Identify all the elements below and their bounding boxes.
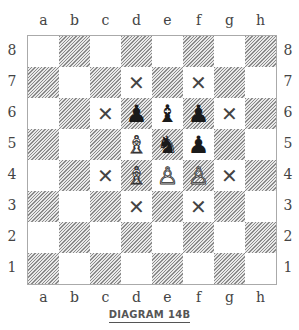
square-h4 xyxy=(245,160,276,191)
caption-text: DIAGRAM 14B xyxy=(109,309,191,323)
square-f5: ♟ xyxy=(183,129,214,160)
file-label-b: b xyxy=(59,289,90,305)
file-label-h: h xyxy=(245,289,276,305)
cross-mark-icon: ✕ xyxy=(190,197,207,217)
chess-board: ✕✕✕♟♝♟✕♗♞♟✕♗♙♙✕✕✕ xyxy=(27,35,277,285)
square-a8 xyxy=(28,36,59,67)
square-h2 xyxy=(245,222,276,253)
cross-mark-icon: ✕ xyxy=(221,104,238,124)
square-e1 xyxy=(152,253,183,284)
rank-label-6: 6 xyxy=(280,104,296,120)
cross-mark-icon: ✕ xyxy=(97,104,114,124)
square-h6 xyxy=(245,98,276,129)
square-a5 xyxy=(28,129,59,160)
file-label-e: e xyxy=(152,12,183,28)
square-b3 xyxy=(59,191,90,222)
square-a4 xyxy=(28,160,59,191)
file-label-a: a xyxy=(28,12,59,28)
square-g6: ✕ xyxy=(214,98,245,129)
square-f3: ✕ xyxy=(183,191,214,222)
square-c5 xyxy=(90,129,121,160)
black-bishop-icon: ♝ xyxy=(157,102,179,126)
square-f6: ♟ xyxy=(183,98,214,129)
square-b6 xyxy=(59,98,90,129)
square-d6: ♟ xyxy=(121,98,152,129)
square-h3 xyxy=(245,191,276,222)
square-e7 xyxy=(152,67,183,98)
rank-label-7: 7 xyxy=(280,73,296,89)
rank-label-1: 1 xyxy=(280,259,296,275)
file-label-c: c xyxy=(90,12,121,28)
black-pawn-icon: ♟ xyxy=(188,102,210,126)
rank-label-1: 1 xyxy=(4,259,20,275)
rank-label-8: 8 xyxy=(280,42,296,58)
square-h8 xyxy=(245,36,276,67)
cross-mark-icon: ✕ xyxy=(221,166,238,186)
rank-label-5: 5 xyxy=(280,135,296,151)
square-f8 xyxy=(183,36,214,67)
file-label-d: d xyxy=(121,289,152,305)
square-e4: ♙ xyxy=(152,160,183,191)
square-g2 xyxy=(214,222,245,253)
file-label-f: f xyxy=(183,12,214,28)
cross-mark-icon: ✕ xyxy=(97,166,114,186)
black-knight-icon: ♞ xyxy=(157,133,179,157)
file-label-c: c xyxy=(90,289,121,305)
black-pawn-icon: ♟ xyxy=(126,102,148,126)
rank-label-3: 3 xyxy=(4,197,20,213)
square-d8 xyxy=(121,36,152,67)
square-f1 xyxy=(183,253,214,284)
square-a6 xyxy=(28,98,59,129)
square-e2 xyxy=(152,222,183,253)
square-d3: ✕ xyxy=(121,191,152,222)
file-label-h: h xyxy=(245,12,276,28)
file-label-b: b xyxy=(59,12,90,28)
square-h1 xyxy=(245,253,276,284)
square-f2 xyxy=(183,222,214,253)
square-f7: ✕ xyxy=(183,67,214,98)
white-bishop-icon: ♗ xyxy=(126,133,148,157)
square-c3 xyxy=(90,191,121,222)
square-a2 xyxy=(28,222,59,253)
cross-mark-icon: ✕ xyxy=(128,197,145,217)
rank-label-2: 2 xyxy=(280,228,296,244)
square-b4 xyxy=(59,160,90,191)
file-label-e: e xyxy=(152,289,183,305)
square-e3 xyxy=(152,191,183,222)
square-g1 xyxy=(214,253,245,284)
square-f4: ♙ xyxy=(183,160,214,191)
diagram-caption: DIAGRAM 14B xyxy=(0,309,299,320)
square-e8 xyxy=(152,36,183,67)
cross-mark-icon: ✕ xyxy=(128,73,145,93)
square-e6: ♝ xyxy=(152,98,183,129)
square-c2 xyxy=(90,222,121,253)
rank-label-2: 2 xyxy=(4,228,20,244)
square-c6: ✕ xyxy=(90,98,121,129)
square-h7 xyxy=(245,67,276,98)
square-a7 xyxy=(28,67,59,98)
square-d7: ✕ xyxy=(121,67,152,98)
cross-mark-icon: ✕ xyxy=(190,73,207,93)
white-bishop-icon: ♗ xyxy=(126,164,148,188)
rank-label-7: 7 xyxy=(4,73,20,89)
file-label-a: a xyxy=(28,289,59,305)
square-d4: ♗ xyxy=(121,160,152,191)
square-h5 xyxy=(245,129,276,160)
rank-label-3: 3 xyxy=(280,197,296,213)
square-b2 xyxy=(59,222,90,253)
square-g7 xyxy=(214,67,245,98)
square-b7 xyxy=(59,67,90,98)
file-label-g: g xyxy=(214,12,245,28)
square-d5: ♗ xyxy=(121,129,152,160)
square-d1 xyxy=(121,253,152,284)
white-pawn-icon: ♙ xyxy=(157,164,179,188)
square-c7 xyxy=(90,67,121,98)
rank-label-8: 8 xyxy=(4,42,20,58)
white-pawn-icon: ♙ xyxy=(188,164,210,188)
square-b5 xyxy=(59,129,90,160)
square-e5: ♞ xyxy=(152,129,183,160)
square-d2 xyxy=(121,222,152,253)
file-label-f: f xyxy=(183,289,214,305)
square-b1 xyxy=(59,253,90,284)
rank-label-4: 4 xyxy=(280,166,296,182)
